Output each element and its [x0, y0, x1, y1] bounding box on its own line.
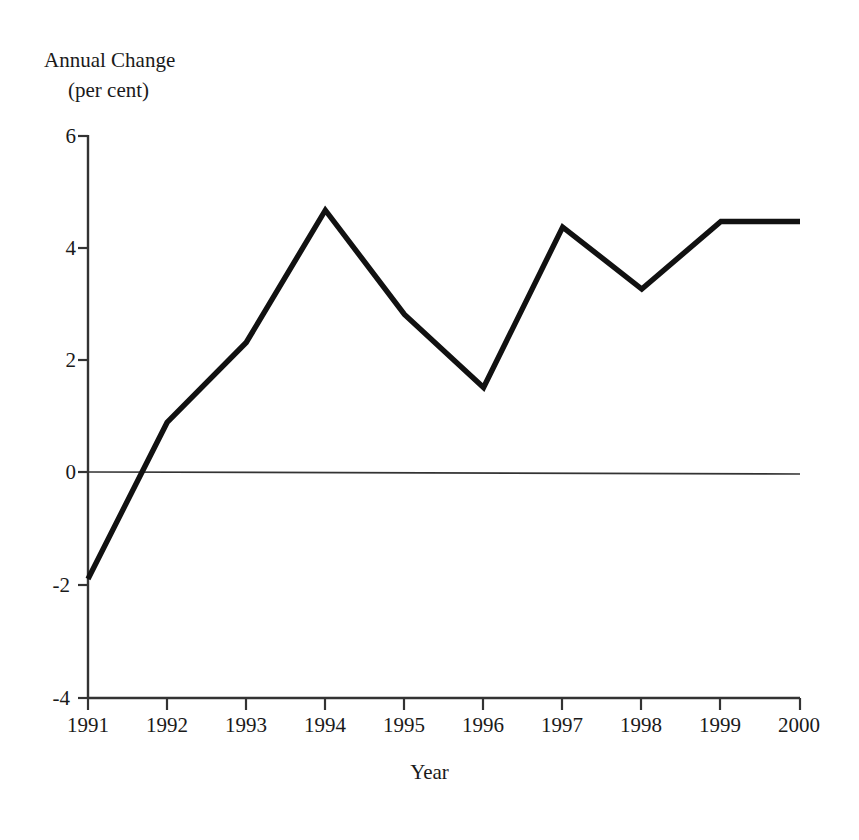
zero-reference-line	[88, 472, 800, 474]
axis-lines	[88, 135, 800, 698]
line-chart: Annual Change (per cent) 6 4 2 0 -2 -4 1…	[0, 0, 859, 840]
data-series-line	[88, 210, 800, 579]
plot-area	[0, 0, 859, 840]
x-axis-ticks	[88, 698, 800, 710]
y-axis-ticks	[78, 136, 88, 698]
